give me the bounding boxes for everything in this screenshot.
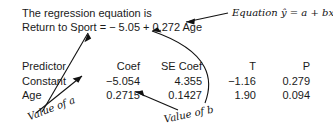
regression-output-figure: The regression equation is Return to Spo… (0, 0, 333, 140)
annotation-value-of-b: Value of b (163, 104, 215, 125)
column-header-se-coef: SE Coef (150, 60, 202, 73)
cell-t-constant: −1.16 (218, 75, 256, 88)
cell-coef-constant: −5.054 (92, 75, 140, 88)
cell-p-constant: 0.279 (272, 75, 310, 88)
cell-p-age: 0.094 (272, 89, 310, 102)
cell-coef-age: 0.2715 (92, 89, 140, 102)
cell-predictor-age: Age (22, 89, 42, 102)
regression-equation-intro: The regression equation is (22, 7, 152, 20)
column-header-t: T (218, 60, 256, 73)
cell-se-coef-age: 0.1427 (150, 89, 202, 102)
cell-predictor-constant: Constant (22, 75, 66, 88)
column-header-predictor: Predictor (22, 60, 66, 73)
column-header-p: P (272, 60, 310, 73)
column-header-coef: Coef (92, 60, 140, 73)
cell-se-coef-constant: 4.355 (150, 75, 202, 88)
cell-t-age: 1.90 (218, 89, 256, 102)
regression-equation: Return to Sport = − 5.05 + 0.272 Age (22, 21, 202, 34)
annotation-equation-callout: Equation ŷ = a + bx (232, 7, 333, 18)
